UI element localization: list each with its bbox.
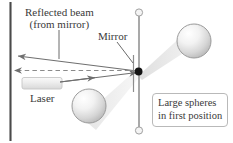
rod-top-knob bbox=[135, 9, 142, 16]
large-spheres-callout-box: Large spheres in first position bbox=[152, 93, 228, 127]
reflected-beam-arrow bbox=[18, 56, 137, 71]
large-sphere-upper-right bbox=[177, 24, 211, 58]
laser-label: Laser bbox=[30, 92, 54, 104]
large-sphere-lower-left bbox=[72, 89, 106, 123]
figure-canvas: Reflected beam (from mirror) Mirror Lase… bbox=[0, 0, 233, 143]
large-spheres-label-line2: in first position bbox=[158, 110, 222, 123]
rod-bottom-knob bbox=[135, 127, 142, 134]
mirror-pivot-dot bbox=[135, 68, 143, 76]
reflected-beam-label-line1: Reflected beam bbox=[25, 6, 94, 18]
mirror-label: Mirror bbox=[98, 30, 127, 42]
laser-device bbox=[22, 78, 62, 90]
mirror-leader-line bbox=[117, 42, 133, 63]
large-spheres-label-line1: Large spheres bbox=[158, 97, 222, 110]
reflected-beam-label-line2: (from mirror) bbox=[25, 18, 94, 30]
reflected-beam-label: Reflected beam (from mirror) bbox=[25, 6, 94, 31]
incident-laser-beam-midarrow bbox=[60, 78, 95, 82]
